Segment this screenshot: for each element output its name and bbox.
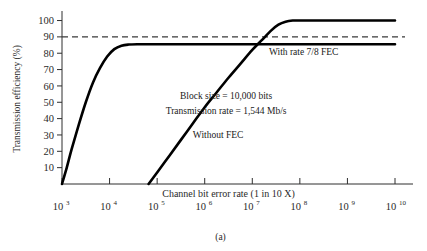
x-tick-exponent: 6 (209, 199, 213, 207)
x-tick-base: 10 (100, 201, 111, 212)
x-tick-label: 108 (291, 199, 308, 212)
x-tick-exponent: 7 (256, 199, 260, 207)
y-tick-label: 20 (44, 146, 55, 157)
x-tick-base: 10 (195, 201, 206, 212)
y-axis: 102030405060708090100Transmission effici… (12, 11, 62, 184)
x-tick-exponent: 8 (304, 199, 308, 207)
data-curves-group (62, 20, 395, 184)
chart-canvas: 102030405060708090100Transmission effici… (0, 0, 427, 251)
x-tick-base: 10 (243, 201, 254, 212)
x-axis: 1031041051061071081091010Channel bit err… (53, 178, 413, 212)
x-tick-label: 107 (243, 199, 260, 212)
y-tick-label: 40 (44, 113, 55, 124)
x-tick-label: 104 (100, 199, 117, 212)
y-tick-label: 80 (44, 48, 55, 59)
y-tick-label: 70 (44, 64, 55, 75)
y-tick-label: 90 (44, 31, 55, 42)
x-tick-exponent: 3 (66, 199, 70, 207)
x-tick-base: 10 (386, 201, 397, 212)
x-tick-exponent: 5 (161, 199, 165, 207)
y-tick-label: 60 (44, 81, 55, 92)
y-tick-label: 50 (44, 97, 55, 108)
x-tick-label: 106 (195, 199, 212, 212)
series-label-without-fec: Without FEC (193, 130, 244, 140)
y-axis-title: Transmission efficiency (%) (12, 45, 23, 153)
x-tick-label: 103 (53, 199, 70, 212)
y-tick-label: 30 (44, 130, 55, 141)
x-tick-base: 10 (338, 201, 349, 212)
text-labels-group: With rate 7/8 FECWithout FECBlock size =… (166, 47, 339, 243)
x-axis-title: Channel bit error rate (1 in 10 X) (162, 188, 294, 200)
block-size-note: Block size = 10,000 bits (180, 91, 272, 101)
x-tick-exponent: 9 (351, 199, 355, 207)
figure-caption: (a) (215, 232, 226, 243)
x-tick-base: 10 (291, 201, 302, 212)
x-tick-exponent: 4 (114, 199, 118, 207)
x-tick-base: 10 (148, 201, 159, 212)
x-tick-label: 1010 (386, 199, 407, 212)
x-tick-label: 105 (148, 199, 165, 212)
x-tick-label: 109 (338, 199, 355, 212)
x-tick-base: 10 (53, 201, 64, 212)
series-label-with-rate-7-8-fec: With rate 7/8 FEC (269, 47, 339, 57)
transmission-rate-note: Transmission rate = 1,544 Mb/s (166, 106, 287, 116)
x-tick-exponent: 10 (399, 199, 407, 207)
y-tick-label: 100 (38, 15, 54, 26)
y-tick-label: 10 (44, 162, 55, 173)
figure-container: 102030405060708090100Transmission effici… (0, 0, 427, 251)
